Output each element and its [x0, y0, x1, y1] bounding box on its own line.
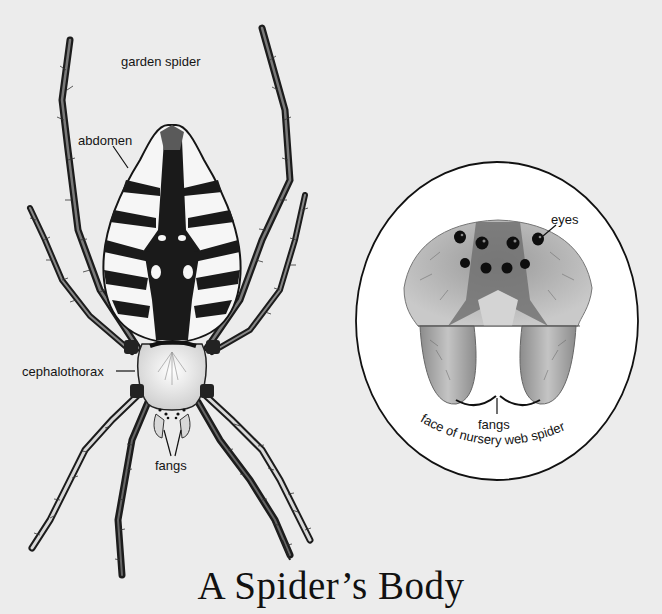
abdomen-illustration [103, 125, 240, 343]
garden-spider-caption: garden spider [121, 55, 201, 68]
cephalothorax-label: cephalothorax [22, 365, 104, 378]
eyes-label: eyes [551, 213, 578, 226]
abdomen-label: abdomen [78, 134, 132, 147]
diagram-title: A Spider’s Body [0, 566, 662, 605]
illustration-layer: face of nursery web spider [0, 0, 662, 614]
garden-spider-fangs-label: fangs [155, 459, 187, 472]
inset-fangs-label: fangs [478, 418, 510, 431]
spider-body-diagram: face of nursery web spider garden spider… [0, 0, 662, 614]
nursery-web-spider-inset [356, 162, 638, 480]
